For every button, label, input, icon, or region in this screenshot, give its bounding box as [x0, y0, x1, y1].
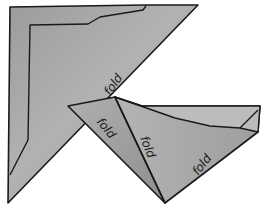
small-folded-triangle — [68, 97, 260, 203]
fold-diagram: fold fold fold fold — [0, 0, 262, 210]
